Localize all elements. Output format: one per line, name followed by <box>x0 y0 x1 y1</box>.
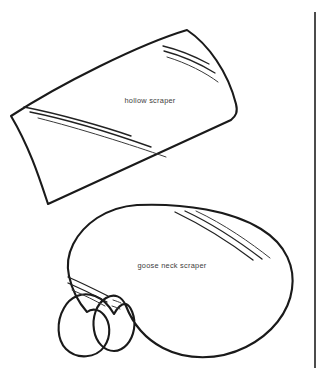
figure-canvas: hollow scraper goose neck scraper <box>0 0 326 380</box>
goose-neck-scraper-label: goose neck scraper <box>138 261 207 270</box>
hollow-scraper-shape: hollow scraper <box>11 30 237 204</box>
scraper-shapes-illustration: hollow scraper goose neck scraper <box>0 0 326 380</box>
hollow-scraper-label: hollow scraper <box>124 96 175 105</box>
goose-neck-scraper-outline <box>59 205 293 358</box>
goose-neck-scraper-shape: goose neck scraper <box>59 205 293 358</box>
hollow-scraper-outline <box>11 30 237 204</box>
